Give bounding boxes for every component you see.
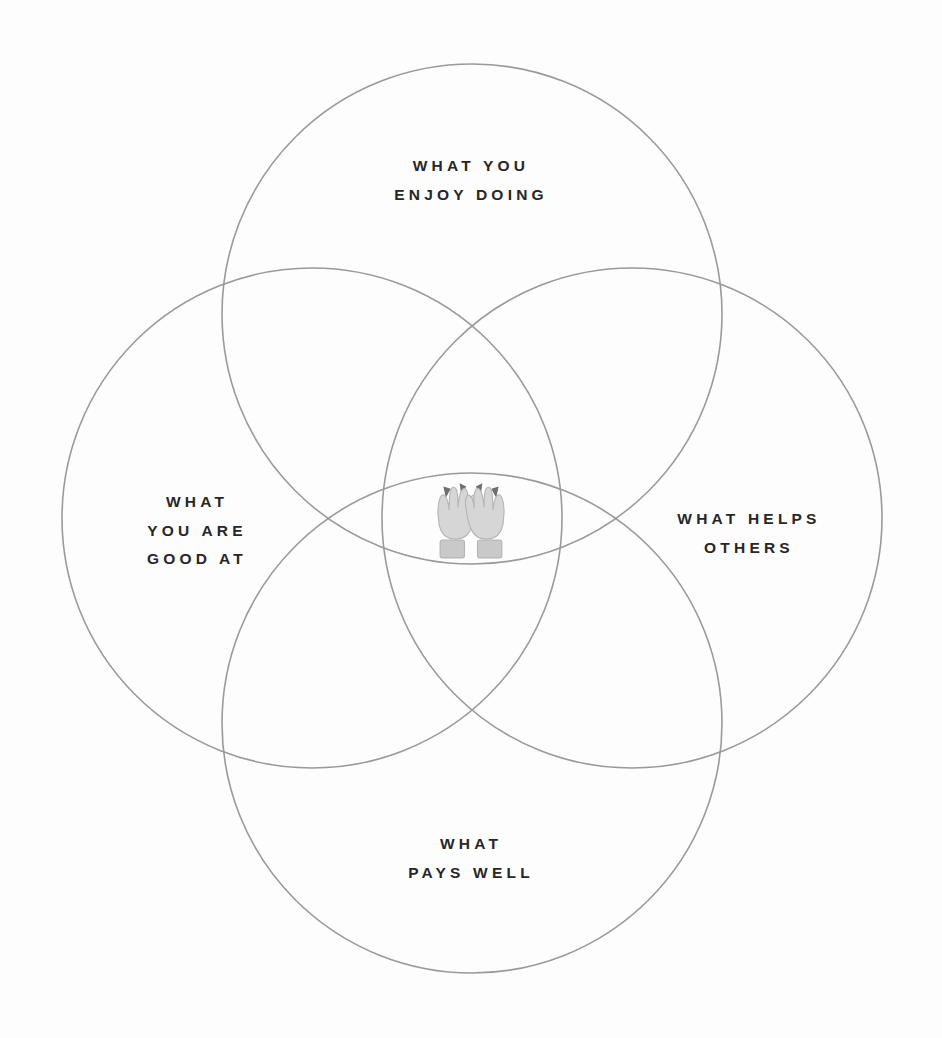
center-emoji-container — [0, 462, 942, 566]
venn-diagram-canvas: WHAT YOU ENJOY DOING WHAT YOU ARE GOOD A… — [0, 0, 942, 1038]
venn-label-enjoy-doing: WHAT YOU ENJOY DOING — [0, 152, 942, 209]
venn-label-pays-well: WHAT PAYS WELL — [0, 830, 942, 887]
raising-hands-icon — [419, 462, 523, 566]
